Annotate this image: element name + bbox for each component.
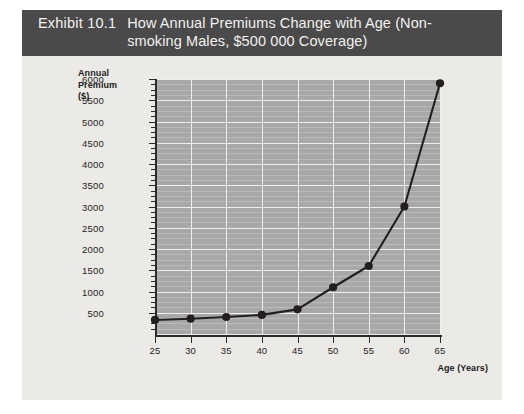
y-axis-tick-label: 3000 bbox=[64, 201, 104, 212]
x-axis-tick bbox=[333, 337, 334, 343]
data-point-marker: 30: 360 bbox=[187, 315, 195, 323]
y-axis-tick-minor bbox=[151, 148, 156, 149]
x-axis-tick-label: 40 bbox=[247, 345, 277, 356]
y-axis-tick bbox=[149, 122, 156, 123]
y-axis-tick bbox=[149, 164, 156, 165]
y-axis-tick-minor bbox=[151, 90, 156, 91]
series-markers: 25: 33030: 36035: 40040: 45045: 58050: 1… bbox=[151, 79, 444, 324]
x-axis-tick-label: 55 bbox=[354, 345, 384, 356]
y-axis-tick-minor bbox=[151, 169, 156, 170]
y-axis-tick-label: 500 bbox=[64, 307, 104, 318]
x-axis-tick-label: 50 bbox=[318, 345, 348, 356]
y-axis-tick-minor bbox=[151, 191, 156, 192]
y-axis-tick-minor bbox=[151, 233, 156, 234]
y-axis-tick-minor bbox=[151, 137, 156, 138]
exhibit-title: How Annual Premiums Change with Age (Non… bbox=[127, 14, 467, 50]
y-axis-tick-minor bbox=[151, 265, 156, 266]
y-axis-tick-minor bbox=[151, 244, 156, 245]
x-axis-tick bbox=[226, 337, 227, 343]
y-axis-tick-minor bbox=[151, 254, 156, 255]
x-axis-tick bbox=[404, 337, 405, 343]
data-point-marker: 55: 1600 bbox=[365, 262, 373, 270]
y-axis-tick bbox=[149, 185, 156, 186]
gridline-vertical bbox=[440, 79, 441, 334]
x-axis-tick-label: 35 bbox=[211, 345, 241, 356]
y-axis-tick-minor bbox=[151, 217, 156, 218]
y-axis-tick bbox=[149, 313, 156, 314]
exhibit-number: Exhibit 10.1 bbox=[38, 14, 116, 31]
data-point-marker: 60: 3000 bbox=[400, 202, 408, 210]
x-axis-tick bbox=[440, 337, 441, 343]
x-axis-tick bbox=[191, 337, 192, 343]
x-axis-tick bbox=[155, 337, 156, 343]
x-axis-tick bbox=[369, 337, 370, 343]
y-axis-tick-minor bbox=[151, 196, 156, 197]
y-axis-tick-minor bbox=[151, 260, 156, 261]
y-axis-tick-minor bbox=[151, 329, 156, 330]
y-axis-tick-minor bbox=[151, 323, 156, 324]
y-axis-tick-label: 1500 bbox=[64, 265, 104, 276]
y-axis-tick-minor bbox=[151, 175, 156, 176]
x-axis-tick-label: 65 bbox=[425, 345, 455, 356]
y-axis-tick-minor bbox=[151, 201, 156, 202]
y-axis-tick bbox=[149, 228, 156, 229]
y-axis-tick-minor bbox=[151, 95, 156, 96]
data-point-marker: 45: 580 bbox=[293, 305, 301, 313]
y-axis-tick-minor bbox=[151, 318, 156, 319]
x-axis-tick-label: 60 bbox=[389, 345, 419, 356]
y-axis-tick-minor bbox=[151, 180, 156, 181]
exhibit-figure: Exhibit 10.1 How Annual Premiums Change … bbox=[22, 10, 502, 400]
x-axis-tick-label: 25 bbox=[140, 345, 170, 356]
y-axis-tick bbox=[149, 79, 156, 80]
y-axis-tick bbox=[149, 292, 156, 293]
y-axis-tick-minor bbox=[151, 286, 156, 287]
y-axis-tick-minor bbox=[151, 238, 156, 239]
title-row: Exhibit 10.1 How Annual Premiums Change … bbox=[38, 14, 488, 50]
data-point-marker: 35: 400 bbox=[222, 313, 230, 321]
data-point-marker: 50: 1100 bbox=[329, 283, 337, 291]
y-axis-tick-minor bbox=[151, 153, 156, 154]
y-axis-tick-minor bbox=[151, 116, 156, 117]
y-axis-tick bbox=[149, 270, 156, 271]
y-axis-tick-label: 3500 bbox=[64, 180, 104, 191]
y-axis-tick-minor bbox=[151, 276, 156, 277]
y-axis-tick-minor bbox=[151, 281, 156, 282]
y-axis-tick bbox=[149, 100, 156, 101]
chart-canvas: Annual Premium ($) 25: 33030: 36035: 400… bbox=[22, 56, 502, 400]
y-axis-tick-minor bbox=[151, 132, 156, 133]
x-axis-tick bbox=[262, 337, 263, 343]
y-axis-tick-label: 6000 bbox=[64, 74, 104, 85]
x-axis-tick-label: 45 bbox=[283, 345, 313, 356]
y-axis-tick-label: 2500 bbox=[64, 222, 104, 233]
y-axis-tick-minor bbox=[151, 106, 156, 107]
x-axis-title: Age (Years) bbox=[437, 363, 488, 375]
y-axis-tick bbox=[149, 249, 156, 250]
data-point-marker: 65: 5900 bbox=[436, 79, 444, 87]
x-axis-tick bbox=[298, 337, 299, 343]
y-axis-tick-minor bbox=[151, 222, 156, 223]
x-axis-title-text: Age (Years) bbox=[437, 363, 488, 373]
exhibit-title-bar: Exhibit 10.1 How Annual Premiums Change … bbox=[22, 10, 502, 56]
y-axis-tick-minor bbox=[151, 297, 156, 298]
y-axis-tick-label: 1000 bbox=[64, 286, 104, 297]
y-axis-tick bbox=[149, 143, 156, 144]
y-axis-tick-label: 5000 bbox=[64, 116, 104, 127]
premium-line-series: 25: 33030: 36035: 40040: 45045: 58050: 1… bbox=[155, 79, 440, 337]
y-axis-tick-minor bbox=[151, 302, 156, 303]
data-point-marker: 40: 450 bbox=[258, 311, 266, 319]
y-axis-tick-label: 4000 bbox=[64, 159, 104, 170]
y-axis-tick-minor bbox=[151, 127, 156, 128]
y-axis-tick-minor bbox=[151, 159, 156, 160]
y-axis-tick-minor bbox=[151, 84, 156, 85]
y-axis-tick-label: 4500 bbox=[64, 137, 104, 148]
x-axis-tick-label: 30 bbox=[176, 345, 206, 356]
y-axis-tick-minor bbox=[151, 307, 156, 308]
y-axis-tick-label: 5500 bbox=[64, 95, 104, 106]
y-axis-tick-minor bbox=[151, 111, 156, 112]
y-axis-tick bbox=[149, 207, 156, 208]
series-polyline bbox=[155, 83, 440, 320]
y-axis-tick-minor bbox=[151, 212, 156, 213]
y-axis-tick-label: 2000 bbox=[64, 244, 104, 255]
